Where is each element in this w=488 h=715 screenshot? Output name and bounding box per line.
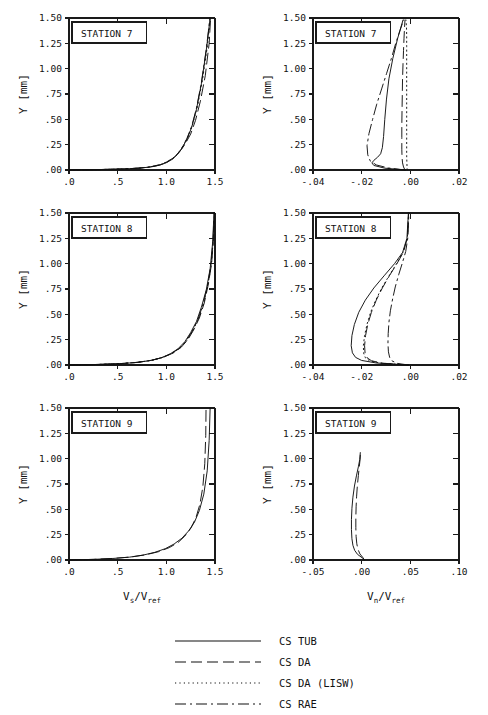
y-axis-title-text: Y [mm]	[261, 269, 274, 309]
y-ticklabel-6: 1.50	[283, 207, 306, 218]
y-axis-title: Y [mm]	[17, 269, 30, 309]
y-axis-title: Y [mm]	[17, 74, 30, 114]
y-ticklabel-4: 1.00	[39, 453, 62, 464]
y-ticklabel-0: .00	[45, 554, 62, 565]
y-ticklabel-2: .50	[289, 309, 306, 320]
y-axis-title-text: Y [mm]	[261, 74, 274, 114]
y-ticklabel-0: .00	[289, 164, 306, 175]
y-axis-title: Y [mm]	[17, 464, 30, 504]
x-ticklabel-1: -.02	[350, 176, 373, 187]
x-ticklabel-3: .02	[450, 176, 467, 187]
station-label-text: STATION 7	[81, 28, 132, 39]
station-label-text: STATION 7	[325, 28, 376, 39]
y-ticklabel-3: .75	[289, 88, 306, 99]
x-ticklabel-1: .5	[112, 566, 123, 577]
y-axis-title-text: Y [mm]	[17, 74, 30, 114]
y-ticklabel-3: .75	[45, 478, 62, 489]
x-ticklabel-2: .00	[402, 371, 419, 382]
y-ticklabel-1: .25	[289, 334, 306, 345]
y-axis-title-text: Y [mm]	[17, 269, 30, 309]
x-ticklabel-2: 1.0	[158, 371, 175, 382]
y-ticklabel-1: .25	[289, 529, 306, 540]
multi-panel-boundary-layer-figure: .00.25.50.751.001.251.50.0.51.01.5STATIO…	[0, 0, 488, 715]
x-ticklabel-2: 1.0	[158, 176, 175, 187]
x-ticklabel-3: .02	[450, 371, 467, 382]
x-ticklabel-0: .0	[63, 176, 75, 187]
y-ticklabel-5: 1.25	[283, 233, 306, 244]
x-ticklabel-1: .00	[353, 566, 370, 577]
station-label-text: STATION 9	[325, 418, 377, 429]
y-ticklabel-3: .75	[289, 283, 306, 294]
y-ticklabel-5: 1.25	[283, 428, 306, 439]
y-ticklabel-5: 1.25	[283, 38, 306, 49]
y-ticklabel-4: 1.00	[283, 453, 306, 464]
y-ticklabel-3: .75	[45, 283, 62, 294]
x-ticklabel-1: .5	[112, 371, 123, 382]
y-axis-title-text: Y [mm]	[17, 464, 30, 504]
y-axis-title: Y [mm]	[261, 74, 274, 114]
y-ticklabel-6: 1.50	[283, 12, 306, 23]
x-ticklabel-2: 1.0	[158, 566, 175, 577]
y-ticklabel-1: .25	[45, 529, 62, 540]
station-label-text: STATION 8	[81, 223, 133, 234]
y-ticklabel-1: .25	[45, 334, 62, 345]
y-axis-title-text: Y [mm]	[261, 464, 274, 504]
x-ticklabel-1: -.02	[350, 371, 373, 382]
y-axis-title: Y [mm]	[261, 269, 274, 309]
legend-label-0: CS TUB	[279, 635, 317, 647]
y-ticklabel-4: 1.00	[39, 63, 62, 74]
y-ticklabel-6: 1.50	[39, 207, 62, 218]
legend-label-1: CS DA	[279, 656, 311, 668]
y-ticklabel-0: .00	[45, 164, 62, 175]
x-ticklabel-0: -.05	[302, 566, 325, 577]
x-ticklabel-3: 1.5	[206, 371, 223, 382]
y-ticklabel-2: .50	[45, 114, 62, 125]
legend-label-3: CS RAE	[279, 698, 317, 710]
y-axis-title: Y [mm]	[261, 464, 274, 504]
figure-root: .00.25.50.751.001.251.50.0.51.01.5STATIO…	[0, 0, 488, 715]
y-ticklabel-4: 1.00	[283, 258, 306, 269]
y-ticklabel-6: 1.50	[39, 402, 62, 413]
y-ticklabel-0: .00	[289, 554, 306, 565]
y-ticklabel-3: .75	[45, 88, 62, 99]
y-ticklabel-2: .50	[289, 504, 306, 515]
x-ticklabel-0: .0	[63, 566, 75, 577]
x-ticklabel-1: .5	[112, 176, 123, 187]
figure-background	[0, 0, 488, 715]
station-label-text: STATION 8	[325, 223, 377, 234]
y-ticklabel-4: 1.00	[39, 258, 62, 269]
station-label-text: STATION 9	[81, 418, 133, 429]
y-ticklabel-5: 1.25	[39, 38, 62, 49]
x-ticklabel-3: .10	[450, 566, 467, 577]
legend-label-2: CS DA (LISW)	[279, 677, 355, 689]
y-ticklabel-0: .00	[289, 359, 306, 370]
y-ticklabel-0: .00	[45, 359, 62, 370]
y-ticklabel-6: 1.50	[283, 402, 306, 413]
x-ticklabel-0: -.04	[302, 371, 325, 382]
x-ticklabel-3: 1.5	[206, 566, 223, 577]
x-ticklabel-2: .00	[402, 176, 419, 187]
y-ticklabel-2: .50	[45, 309, 62, 320]
x-ticklabel-0: -.04	[302, 176, 325, 187]
y-ticklabel-1: .25	[45, 139, 62, 150]
y-ticklabel-5: 1.25	[39, 428, 62, 439]
y-ticklabel-6: 1.50	[39, 12, 62, 23]
y-ticklabel-5: 1.25	[39, 233, 62, 244]
x-ticklabel-3: 1.5	[206, 176, 223, 187]
y-ticklabel-2: .50	[289, 114, 306, 125]
x-ticklabel-0: .0	[63, 371, 75, 382]
x-ticklabel-2: .05	[402, 566, 419, 577]
y-ticklabel-2: .50	[45, 504, 62, 515]
y-ticklabel-3: .75	[289, 478, 306, 489]
y-ticklabel-1: .25	[289, 139, 306, 150]
y-ticklabel-4: 1.00	[283, 63, 306, 74]
